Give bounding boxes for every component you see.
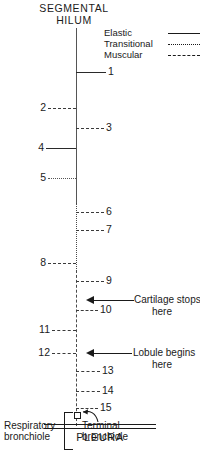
branch-stub-7: [76, 230, 104, 231]
branch-stub-10: [76, 310, 98, 311]
generation-number-9: 9: [106, 275, 112, 286]
page-title-line-1: SEGMENTAL: [0, 2, 148, 14]
lobule-callout-arrow-head-icon: [86, 349, 94, 357]
generation-number-15: 15: [100, 402, 112, 413]
legend-swatch-dashed-line-icon: [168, 55, 200, 56]
branch-stub-9: [76, 281, 104, 282]
trunk-segment-transitional: [76, 203, 77, 271]
branch-stub-11: [52, 330, 76, 331]
generation-number-11: 11: [28, 324, 50, 335]
cartilage-callout-line-1: Cartilage stops: [134, 294, 200, 306]
generation-number-3: 3: [106, 122, 112, 133]
generation-number-6: 6: [106, 206, 112, 217]
cartilage-callout-line-2: here: [152, 306, 172, 318]
generation-number-7: 7: [106, 224, 112, 235]
cartilage-callout-arrow-line: [94, 300, 134, 301]
generation-number-4: 4: [24, 142, 44, 153]
lobule-callout-line-2: here: [152, 359, 172, 371]
legend: Elastic Transitional Muscular: [104, 28, 200, 61]
legend-swatch-solid-line-icon: [168, 33, 200, 34]
branch-stub-3: [76, 128, 104, 129]
page-title: SEGMENTAL HILUM: [0, 2, 148, 26]
generation-number-8: 8: [26, 257, 46, 268]
generation-number-1: 1: [108, 66, 114, 77]
legend-item-transitional: Transitional: [104, 39, 200, 49]
lobule-callout-line-1: Lobule begins: [133, 347, 195, 359]
lobule-callout-arrow-line: [94, 353, 132, 354]
generation-number-14: 14: [102, 385, 114, 396]
generation-number-13: 13: [102, 365, 114, 376]
branch-stub-2: [48, 108, 76, 109]
branch-stub-4: [46, 148, 76, 149]
generation-number-12: 12: [28, 347, 50, 358]
branch-stub-5: [48, 178, 76, 179]
legend-swatch-dotted-line-icon: [168, 44, 200, 45]
trunk-segment-muscular: [76, 270, 77, 426]
trunk-segment-elastic: [76, 28, 77, 204]
generation-number-5: 5: [26, 172, 46, 183]
legend-label-elastic: Elastic: [104, 27, 132, 38]
branch-stub-8: [48, 263, 76, 264]
branch-stub-13: [76, 371, 100, 372]
pleura-label: PLEURA: [44, 431, 156, 443]
legend-label-transitional: Transitional: [104, 38, 153, 49]
legend-item-elastic: Elastic: [104, 28, 200, 38]
branch-stub-6: [76, 212, 104, 213]
cartilage-callout-arrow-head-icon: [86, 296, 94, 304]
branch-stub-14: [76, 391, 100, 392]
page-title-line-2: HILUM: [0, 14, 148, 26]
legend-label-muscular: Muscular: [104, 49, 143, 60]
legend-item-muscular: Muscular: [104, 50, 200, 60]
pleura-line-upper: [44, 424, 156, 425]
generation-number-2: 2: [26, 102, 46, 113]
terminal-bronchiole-label-line-1: Terminal: [82, 420, 120, 432]
respiratory-bronchiole-label-line-1: Respiratory: [4, 420, 55, 432]
airway-generation-diagram: SEGMENTAL HILUM Elastic Transitional Mus…: [0, 0, 200, 452]
generation-number-10: 10: [100, 304, 112, 315]
branch-stub-1: [76, 72, 106, 73]
branch-stub-12: [52, 353, 76, 354]
pleura-line-lower: [44, 428, 156, 429]
